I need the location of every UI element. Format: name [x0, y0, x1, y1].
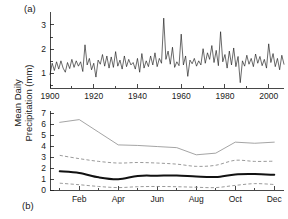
panel-b-x-tick-label: Jun [150, 194, 164, 204]
panel-b-mean-series-line [60, 171, 275, 179]
panel-a-plot: 123190019201940196019802000 [0, 0, 288, 110]
panel-b-y-tick-label: 1 [41, 174, 46, 184]
panel-b-y-tick-label: 7 [41, 108, 46, 118]
panel-b-label: (b) [22, 200, 34, 211]
panel-b-plot: 01234567FebAprJunAugOctDec [0, 105, 288, 219]
panel-a-y-tick-label: 1 [41, 68, 46, 78]
panel-b-y-tick-label: 4 [41, 141, 46, 151]
panel-a-x-tick-label: 2000 [259, 91, 278, 101]
panel-b-max-series-line [60, 120, 275, 155]
panel-b-x-tick-label: Aug [189, 194, 204, 204]
panel-b-x-tick-label: Feb [72, 194, 87, 204]
panel-a-y-tick-label: 2 [41, 44, 46, 54]
panel-b-y-tick-label: 3 [41, 152, 46, 162]
panel-a-annual-timeseries: 123190019201940196019802000 (a) [0, 0, 288, 110]
panel-b-percentile-series-line [60, 183, 275, 188]
panel-b-y-tick-label: 5 [41, 130, 46, 140]
panel-a-annual-series-line [50, 18, 284, 83]
panel-a-x-tick-label: 1920 [84, 91, 103, 101]
panel-a-x-tick-label: 1900 [41, 91, 60, 101]
panel-b-percentile-series-line [60, 155, 275, 166]
panel-b-x-tick-label: Oct [229, 194, 243, 204]
precipitation-figure: Mean Daily Precipitation (mm) 1231900192… [0, 0, 288, 219]
panel-a-x-tick-label: 1940 [128, 91, 147, 101]
panel-b-monthly-climatology: 01234567FebAprJunAugOctDec (b) [0, 105, 288, 219]
panel-a-x-tick-label: 1980 [215, 91, 234, 101]
panel-b-y-tick-label: 2 [41, 163, 46, 173]
panel-b-x-tick-label: Dec [267, 194, 283, 204]
panel-b-y-tick-label: 6 [41, 119, 46, 129]
panel-a-x-tick-label: 1960 [172, 91, 191, 101]
panel-a-y-tick-label: 3 [41, 20, 46, 30]
panel-a-label: (a) [24, 3, 36, 14]
panel-b-x-tick-label: Apr [112, 194, 125, 204]
panel-b-y-tick-label: 0 [41, 185, 46, 195]
